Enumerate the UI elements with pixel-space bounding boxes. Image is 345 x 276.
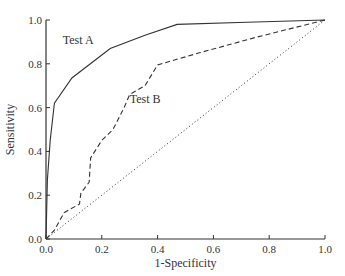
y-tick-label: 1.0 xyxy=(28,14,42,26)
x-tick-label: 1.0 xyxy=(318,243,332,255)
annotation-test-b: Test B xyxy=(130,92,161,106)
x-tick-label: 0.2 xyxy=(95,243,109,255)
y-tick-label: 0.4 xyxy=(28,145,42,157)
y-tick-label: 0.2 xyxy=(28,189,42,201)
y-tick-label: 0.0 xyxy=(28,233,42,245)
y-tick-label: 0.6 xyxy=(28,102,42,114)
y-tick-label: 0.8 xyxy=(28,58,42,70)
roc-chart: 0.00.20.40.60.81.00.00.20.40.60.81.01-Sp… xyxy=(0,0,345,276)
x-tick-label: 0.8 xyxy=(262,243,276,255)
x-axis-label: 1-Specificity xyxy=(155,256,217,270)
x-tick-label: 0.6 xyxy=(207,243,221,255)
annotation-test-a: Test A xyxy=(63,33,94,47)
x-tick-label: 0.4 xyxy=(151,243,165,255)
y-axis-label: Sensitivity xyxy=(3,104,17,155)
series-chance xyxy=(46,20,325,239)
